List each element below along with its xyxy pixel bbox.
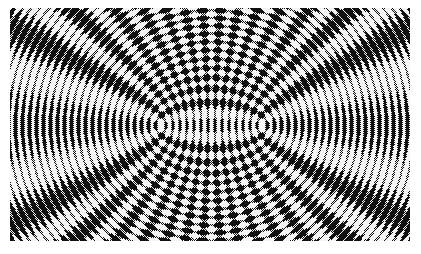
- wave-interference-pattern: [10, 8, 410, 241]
- interference-figure: [0, 0, 421, 254]
